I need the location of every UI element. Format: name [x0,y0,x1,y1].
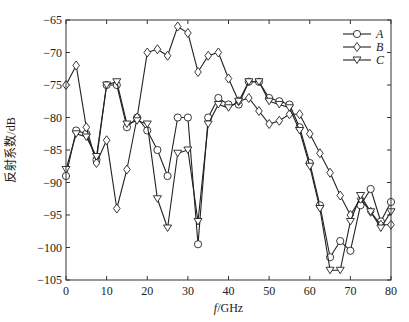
diamond-marker [174,22,181,31]
x-tick-label: 40 [223,284,235,298]
y-tick-label: −90 [43,176,62,190]
diamond-marker [215,48,222,57]
triangle-down-marker [377,225,385,232]
circle-marker [194,241,201,248]
x-tick-label: 0 [63,284,69,298]
diamond-marker [327,168,334,177]
x-tick-label: 20 [141,284,153,298]
diamond-marker [113,204,120,213]
reflection-coefficient-chart: 01020304050607080−65−70−75−80−85−90−95−1… [0,0,409,322]
triangle-down-marker [316,206,324,213]
diamond-marker [225,74,232,83]
y-tick-label: −75 [43,78,62,92]
x-tick-label: 70 [344,284,356,298]
diamond-marker [154,45,161,54]
diamond-marker [354,43,361,52]
circle-marker [174,114,181,121]
triangle-down-marker [306,163,314,170]
triangle-down-marker [72,131,80,138]
circle-marker [337,237,344,244]
triangle-down-marker [194,219,202,226]
legend-label-C: C [376,53,385,67]
x-tick-label: 30 [182,284,194,298]
circle-marker [367,185,374,192]
diamond-marker [185,29,192,38]
legend-label-A: A [375,27,384,41]
circle-marker [184,114,191,121]
triangle-down-marker [204,121,212,128]
circle-marker [154,146,161,153]
y-axis-title: 反射系数/dB [3,117,18,182]
y-tick-label: −80 [43,111,62,125]
x-tick-label: 10 [101,284,113,298]
diamond-marker [124,165,131,174]
x-tick-label: 80 [385,284,397,298]
circle-marker [164,172,171,179]
triangle-down-marker [153,196,161,203]
y-tick-label: −100 [37,241,62,255]
diamond-marker [83,123,90,132]
series-B [63,22,395,229]
y-tick-label: −105 [37,273,62,287]
y-tick-label: −70 [43,46,62,60]
diamond-marker [276,116,283,125]
legend: ABC [343,27,385,67]
triangle-down-marker [174,150,182,157]
diamond-marker [164,51,171,60]
circle-marker [353,30,360,37]
triangle-down-marker [214,102,222,109]
triangle-down-marker [275,102,283,109]
diamond-marker [144,48,151,57]
x-axis-title: f/GHz [214,301,243,315]
diamond-marker [73,61,80,70]
x-tick-label: 50 [263,284,275,298]
triangle-down-marker [225,105,233,112]
x-tick-label: 60 [304,284,316,298]
y-tick-label: −65 [43,13,62,27]
legend-label-B: B [376,40,384,54]
circle-marker [347,247,354,254]
diamond-marker [296,110,303,119]
circle-marker [215,94,222,101]
triangle-down-marker [346,219,354,226]
triangle-down-marker [265,98,273,105]
y-tick-label: −95 [43,208,62,222]
triangle-down-marker [164,225,172,232]
triangle-down-marker [296,128,304,135]
diamond-marker [337,191,344,200]
diamond-marker [306,129,313,138]
diamond-marker [103,136,110,145]
y-tick-label: −85 [43,143,62,157]
diamond-marker [317,149,324,158]
